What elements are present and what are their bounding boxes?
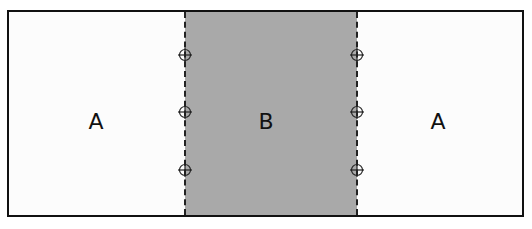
region-a-left-label: A (88, 109, 103, 134)
crosshair-circle-icon (350, 163, 364, 177)
region-a-right-label: A (430, 109, 445, 134)
crosshair-circle-icon (178, 48, 192, 62)
crosshair-circle-icon (350, 105, 364, 119)
diagram-frame: A B A (7, 10, 524, 217)
crosshair-circle-icon (178, 163, 192, 177)
crosshair-circle-icon (350, 48, 364, 62)
crosshair-circle-icon (178, 105, 192, 119)
region-b-label: B (258, 109, 273, 134)
